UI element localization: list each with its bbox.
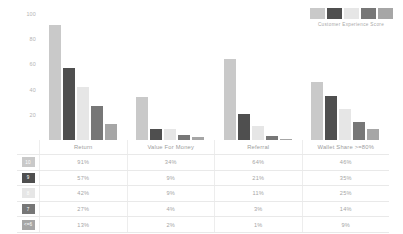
bar[interactable] — [136, 97, 148, 140]
bar-group-referral — [214, 14, 302, 140]
table-row: 957%9%21%35% — [17, 170, 389, 186]
table-row: 1091%34%64%46% — [17, 154, 389, 170]
y-tick-60: 60 — [30, 61, 36, 67]
table-cell: 4% — [127, 202, 215, 217]
table-cell: 11% — [214, 186, 302, 201]
score-badge: 8 — [22, 188, 35, 198]
table-cell: 13% — [39, 217, 127, 232]
table-cell: 1% — [214, 217, 302, 232]
bar-groups — [39, 14, 389, 140]
bar[interactable] — [353, 122, 365, 140]
table-cell: 35% — [302, 171, 390, 186]
bar[interactable] — [311, 82, 323, 140]
table-cell: 9% — [127, 186, 215, 201]
bar[interactable] — [224, 59, 236, 140]
column-header: Wallet Share >=80% — [302, 140, 390, 154]
data-table: ReturnValue For MoneyReferralWallet Shar… — [17, 140, 389, 233]
column-header: Value For Money — [127, 140, 215, 154]
score-badge: 10 — [22, 157, 35, 167]
table-cell: 34% — [127, 155, 215, 170]
bar-group-value-for-money — [127, 14, 215, 140]
table-bottom-border — [17, 232, 389, 233]
column-header: Return — [39, 140, 127, 154]
row-badge-cell: 9 — [17, 171, 39, 186]
table-row: 842%9%11%25% — [17, 185, 389, 201]
bar-group-return — [39, 14, 127, 140]
bar[interactable] — [105, 124, 117, 140]
table-cell: 57% — [39, 171, 127, 186]
y-axis: 10080604020 — [17, 14, 39, 140]
table-header-row: ReturnValue For MoneyReferralWallet Shar… — [17, 140, 389, 154]
score-badge: 9 — [22, 173, 35, 183]
row-badge-cell: 10 — [17, 155, 39, 170]
table-cell: 9% — [302, 217, 390, 232]
table-cell: 91% — [39, 155, 127, 170]
bar[interactable] — [238, 114, 250, 140]
y-tick-40: 40 — [30, 87, 36, 93]
row-badge-cell: 7 — [17, 202, 39, 217]
column-header: Referral — [214, 140, 302, 154]
row-badge-cell: 8 — [17, 186, 39, 201]
y-tick-20: 20 — [30, 112, 36, 118]
table-cell: 25% — [302, 186, 390, 201]
table-cell: 21% — [214, 171, 302, 186]
row-badge-cell: <=6 — [17, 217, 39, 232]
bar[interactable] — [77, 87, 89, 140]
score-badge: 7 — [22, 204, 35, 214]
table-body: 1091%34%64%46%957%9%21%35%842%9%11%25%72… — [17, 154, 389, 232]
table-cell: 2% — [127, 217, 215, 232]
score-badge: <=6 — [22, 220, 35, 230]
table-row: 727%4%3%14% — [17, 201, 389, 217]
table-cell: 14% — [302, 202, 390, 217]
table-cell: 9% — [127, 171, 215, 186]
bar-chart-plot: 10080604020 — [17, 14, 389, 140]
table-cell: 46% — [302, 155, 390, 170]
table-row: <=613%2%1%9% — [17, 216, 389, 232]
table-cell: 3% — [214, 202, 302, 217]
y-tick-80: 80 — [30, 36, 36, 42]
bar[interactable] — [150, 129, 162, 140]
bar[interactable] — [91, 106, 103, 140]
y-tick-100: 100 — [26, 11, 36, 17]
table-cell: 27% — [39, 202, 127, 217]
bar[interactable] — [49, 25, 61, 140]
bar[interactable] — [252, 126, 264, 140]
bar[interactable] — [339, 109, 351, 141]
row-header-corner — [17, 140, 39, 154]
bar[interactable] — [325, 96, 337, 140]
table-cell: 64% — [214, 155, 302, 170]
chart-canvas: Customer Experience Score 10080604020 Re… — [0, 0, 403, 234]
bar-group-wallet-share-80 — [302, 14, 390, 140]
bar[interactable] — [164, 129, 176, 140]
bar[interactable] — [63, 68, 75, 140]
table-cell: 42% — [39, 186, 127, 201]
bar[interactable] — [367, 129, 379, 140]
